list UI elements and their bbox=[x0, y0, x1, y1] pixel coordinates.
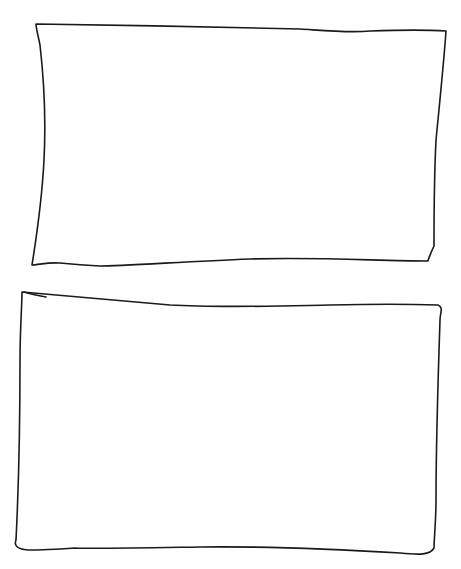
top-rectangle bbox=[32, 24, 446, 266]
drawing-canvas bbox=[0, 0, 461, 569]
bottom-rectangle bbox=[15, 292, 441, 554]
